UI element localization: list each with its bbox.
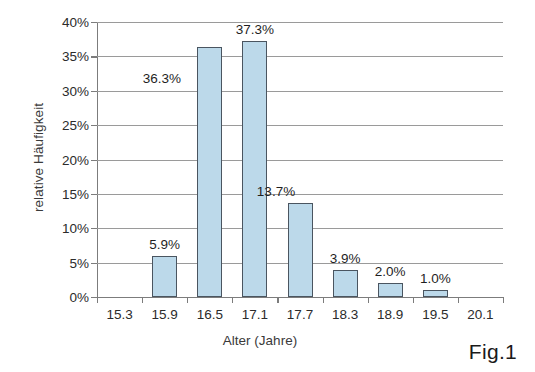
bar	[423, 290, 448, 297]
x-tick-mark	[413, 297, 414, 303]
x-tick-label: 20.1	[450, 307, 510, 322]
gridline	[97, 22, 503, 23]
y-tick-mark	[91, 160, 97, 161]
x-tick-mark	[142, 297, 143, 303]
y-tick-label: 25%	[45, 118, 89, 133]
bar-value-label: 36.3%	[127, 71, 197, 86]
y-tick-label: 40%	[45, 15, 89, 30]
x-tick-mark	[368, 297, 369, 303]
bar	[242, 41, 267, 297]
x-tick-mark	[187, 297, 188, 303]
x-axis-line	[97, 297, 503, 298]
y-tick-mark	[91, 56, 97, 57]
bar-value-label: 1.0%	[400, 271, 470, 286]
bar	[288, 203, 313, 297]
y-tick-mark	[91, 263, 97, 264]
y-tick-mark	[91, 22, 97, 23]
y-tick-label: 35%	[45, 49, 89, 64]
gridline	[97, 125, 503, 126]
y-tick-mark	[91, 91, 97, 92]
bar	[378, 283, 403, 297]
figure-container: relative Häufigkeit 0%5%10%15%20%25%30%3…	[0, 0, 535, 372]
y-tick-label: 20%	[45, 152, 89, 167]
y-tick-label: 5%	[45, 255, 89, 270]
x-tick-mark	[503, 297, 504, 303]
bar-value-label: 37.3%	[220, 22, 290, 37]
y-tick-mark	[91, 194, 97, 195]
bar-value-label: 5.9%	[130, 237, 200, 252]
bar	[197, 47, 222, 297]
y-tick-mark	[91, 125, 97, 126]
y-tick-label: 10%	[45, 221, 89, 236]
x-tick-mark	[97, 297, 98, 303]
x-tick-mark	[323, 297, 324, 303]
y-tick-label: 15%	[45, 186, 89, 201]
y-tick-mark	[91, 228, 97, 229]
bar	[152, 256, 177, 297]
gridline	[97, 91, 503, 92]
x-axis-title: Alter (Jahre)	[150, 333, 370, 348]
bar	[333, 270, 358, 297]
x-tick-mark	[277, 297, 278, 303]
gridline	[97, 160, 503, 161]
figure-caption: Fig.1	[469, 340, 517, 364]
plot-area: 0%5%10%15%20%25%30%35%40%15.315.95.9%16.…	[97, 22, 503, 297]
gridline	[97, 56, 503, 57]
bar-value-label: 13.7%	[241, 184, 311, 199]
x-tick-mark	[458, 297, 459, 303]
y-axis-title: relative Häufigkeit	[31, 58, 46, 258]
y-tick-label: 30%	[45, 83, 89, 98]
x-tick-mark	[232, 297, 233, 303]
y-tick-label: 0%	[45, 290, 89, 305]
